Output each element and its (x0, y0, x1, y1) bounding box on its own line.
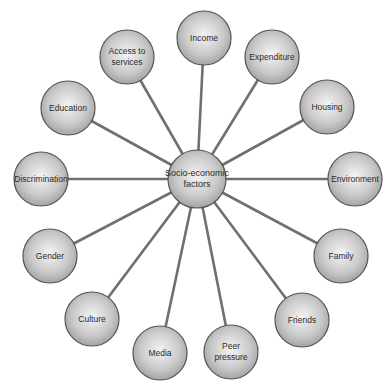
node-education (41, 81, 95, 135)
node-culture (65, 292, 119, 346)
node-access-to-services (100, 30, 154, 84)
node-peer-pressure (204, 325, 258, 379)
node-expenditure (245, 30, 299, 84)
node-family (314, 229, 368, 283)
node-center (168, 150, 226, 208)
node-housing (300, 80, 354, 134)
node-income (177, 11, 231, 65)
diagram-graphics (0, 0, 391, 390)
diagram-canvas: IncomeExpenditureHousingEnvironmentFamil… (0, 0, 391, 390)
node-environment (328, 152, 382, 206)
node-discrimination (14, 152, 68, 206)
node-gender (23, 229, 77, 283)
node-friends (275, 293, 329, 347)
nodes (14, 11, 382, 380)
node-media (133, 326, 187, 380)
